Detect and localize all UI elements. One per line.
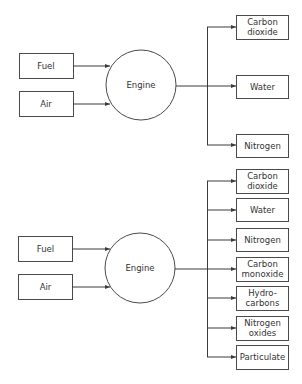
output-label: carbons xyxy=(246,298,280,308)
input-label: Fuel xyxy=(37,244,54,254)
output-particulate: Particulate xyxy=(237,346,289,370)
input-fuel: Fuel xyxy=(19,237,73,262)
output-carbon-dioxide: Carbon dioxide xyxy=(237,16,289,40)
output-label: Carbon xyxy=(247,259,278,269)
output-water: Water xyxy=(237,76,289,99)
output-label: Water xyxy=(250,82,276,92)
output-carbon-dioxide: Carbon dioxide xyxy=(237,170,289,194)
output-label: Hydro- xyxy=(248,288,277,298)
engine-node: Engine xyxy=(105,233,175,303)
input-air: Air xyxy=(19,275,73,300)
input-label: Fuel xyxy=(37,61,54,71)
output-label: Nitrogen xyxy=(244,141,281,151)
output-label: Nitrogen xyxy=(244,235,281,245)
diagram-real: Fuel Air Engine Carbon dioxide Water xyxy=(19,170,289,370)
output-label: dioxide xyxy=(247,181,278,191)
input-fuel: Fuel xyxy=(20,54,74,79)
diagram-ideal: Fuel Air Engine Carbon dioxide Water Nit… xyxy=(20,16,289,158)
output-label: Water xyxy=(250,205,276,215)
input-label: Air xyxy=(40,99,52,109)
output-nitrogen: Nitrogen xyxy=(237,229,289,252)
output-water: Water xyxy=(237,199,289,222)
output-hydrocarbons: Hydro- carbons xyxy=(237,287,289,311)
engine-emissions-diagram: Fuel Air Engine Carbon dioxide Water Nit… xyxy=(0,0,302,384)
input-air: Air xyxy=(20,92,74,117)
input-label: Air xyxy=(40,282,52,292)
engine-label: Engine xyxy=(126,80,155,90)
output-nitrogen: Nitrogen xyxy=(237,135,289,158)
output-label: oxides xyxy=(249,328,277,338)
output-label: monoxide xyxy=(242,269,284,279)
output-label: Carbon xyxy=(247,171,278,181)
engine-label: Engine xyxy=(125,263,154,273)
output-carbon-monoxide: Carbon monoxide xyxy=(237,258,289,282)
output-label: dioxide xyxy=(247,27,278,37)
output-label: Carbon xyxy=(247,17,278,27)
output-label: Nitrogen xyxy=(244,318,281,328)
output-label: Particulate xyxy=(240,352,285,362)
output-nitrogen-oxides: Nitrogen oxides xyxy=(237,317,289,341)
engine-node: Engine xyxy=(106,50,176,120)
